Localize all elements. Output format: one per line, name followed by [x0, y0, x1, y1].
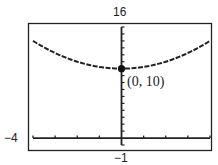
xmin-label: −4 [4, 132, 18, 144]
graph-window [0, 0, 218, 165]
point-annotation: (0, 10) [127, 74, 164, 90]
ymax-label: 16 [113, 6, 126, 18]
ymin-label: −1 [114, 152, 128, 164]
axes [33, 27, 210, 145]
point-marker [118, 65, 125, 72]
plot-frame [29, 24, 212, 151]
